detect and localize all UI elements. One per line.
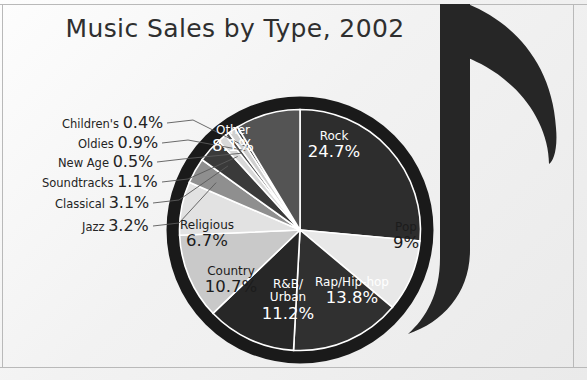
leader-label: Classical 3.1% <box>55 193 149 212</box>
leader-label: Oldies 0.9% <box>78 133 158 152</box>
leader-label-name: Children's <box>62 117 123 131</box>
leader-label-value: 1.1% <box>117 172 158 191</box>
leader-label: Children's 0.4% <box>62 113 163 132</box>
chart-figure: Music Sales by Type, 2002 Other8.1%Rock2… <box>0 0 587 380</box>
pie-slice-label-name: Pop <box>393 221 419 234</box>
leader-label-value: 0.5% <box>113 152 154 171</box>
leader-label: Jazz 3.2% <box>82 216 149 235</box>
pie-slice-label-value: 13.8% <box>315 289 389 307</box>
pie-slice-label-name: Religious <box>180 219 234 232</box>
pie-slice-label-value: 24.7% <box>308 143 360 161</box>
pie-slice-label-name: Other <box>212 124 254 137</box>
pie-slice-label-value: 6.7% <box>180 232 234 250</box>
music-note-icon <box>408 4 556 334</box>
leader-label-name: Jazz <box>82 220 108 234</box>
pie-slice-label-value: 8.1% <box>212 137 254 155</box>
pie-slice-label: Religious6.7% <box>180 219 234 251</box>
leader-label-name: Soundtracks <box>42 176 117 190</box>
pie-slice-label-value: 9% <box>393 234 419 252</box>
pie-slice-label-value: 10.7% <box>205 278 257 296</box>
leader-label-value: 3.1% <box>109 193 150 212</box>
leader-label-name: Classical <box>55 197 109 211</box>
leader-label-name: New Age <box>58 156 113 170</box>
leader-label-name: Oldies <box>78 137 117 151</box>
pie-slice-label-name: Country <box>205 265 257 278</box>
pie-slice-label-name: Rock <box>308 130 360 143</box>
pie-slice-label-name: Rap/Hip-hop <box>315 276 389 289</box>
leader-label: New Age 0.5% <box>58 152 153 171</box>
leader-label-value: 0.4% <box>123 113 164 132</box>
pie-slice-label: Pop9% <box>393 221 419 253</box>
pie-slice-label: Rap/Hip-hop13.8% <box>315 276 389 308</box>
leader-label-value: 3.2% <box>108 216 149 235</box>
pie-slice-label: Rock24.7% <box>308 130 360 162</box>
leader-label: Soundtracks 1.1% <box>42 172 158 191</box>
pie-slice-label-name: R&B/Urban <box>262 278 314 305</box>
leader-label-value: 0.9% <box>117 133 158 152</box>
pie-slice-label: Other8.1% <box>212 124 254 156</box>
pie-slice-label-value: 11.2% <box>262 305 314 323</box>
pie-slice-label: R&B/Urban11.2% <box>262 278 314 323</box>
pie-slice-label: Country10.7% <box>205 265 257 297</box>
